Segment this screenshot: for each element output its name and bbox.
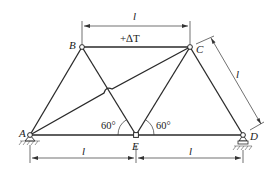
- side-dimension: [196, 36, 264, 130]
- joint-b: [80, 45, 85, 50]
- node-label-e: E: [131, 140, 139, 152]
- bottom-dimension-label-right: l: [189, 145, 192, 157]
- angle-label-right: 60°: [156, 120, 171, 131]
- node-label-c: C: [196, 43, 204, 55]
- bottom-dimension-label-left: l: [82, 145, 85, 157]
- angle-arc-right: [146, 120, 155, 135]
- member-ab: [30, 47, 82, 135]
- joint-a: [28, 133, 33, 138]
- top-dimension-label: l: [133, 10, 136, 22]
- joint-d: [241, 133, 246, 138]
- joint-e: [134, 133, 139, 138]
- truss-members: [30, 47, 243, 135]
- node-label-d: D: [249, 130, 258, 142]
- angle-label-left: 60°: [101, 120, 116, 131]
- node-label-a: A: [18, 127, 26, 139]
- joint-c: [188, 45, 193, 50]
- angle-arc-left: [118, 120, 127, 135]
- node-label-b: B: [69, 39, 76, 51]
- side-dimension-label: l: [236, 68, 239, 80]
- temperature-label: +∆T: [120, 32, 140, 44]
- truss-diagram: 60° 60° l +∆T l l l: [0, 0, 279, 173]
- member-cd: [190, 47, 243, 135]
